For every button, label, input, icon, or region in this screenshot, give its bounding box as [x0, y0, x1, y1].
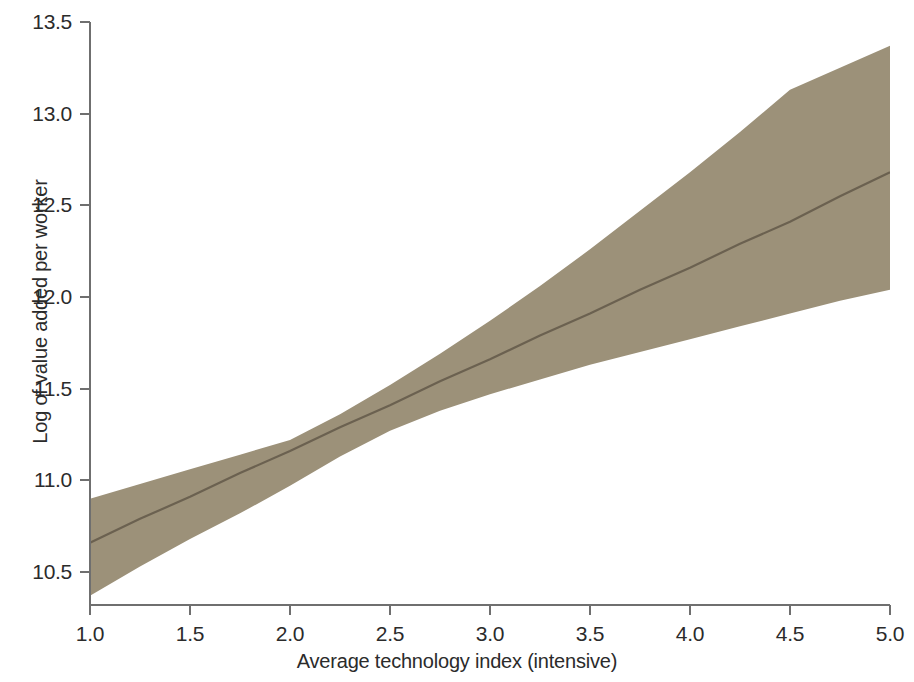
x-tick-label: 3.5 [576, 622, 604, 646]
x-tick-label: 2.0 [276, 622, 304, 646]
x-tick-label: 4.5 [776, 622, 804, 646]
x-tick-label: 3.0 [476, 622, 504, 646]
x-tick-label: 4.0 [676, 622, 704, 646]
x-tick-label: 1.0 [76, 622, 104, 646]
plot-area [0, 0, 914, 682]
x-axis-label: Average technology index (intensive) [0, 650, 914, 673]
y-tick-label: 10.5 [0, 560, 72, 584]
y-tick-label: 13.0 [0, 102, 72, 126]
y-tick-label: 13.5 [0, 10, 72, 34]
x-tick-label: 2.5 [376, 622, 404, 646]
chart-figure: 10.511.011.512.012.513.013.5 1.01.52.02.… [0, 0, 914, 682]
y-axis-label: Log of value added per worker [29, 132, 52, 492]
confidence-band [90, 46, 890, 596]
x-tick-label: 5.0 [876, 622, 904, 646]
x-tick-label: 1.5 [176, 622, 204, 646]
